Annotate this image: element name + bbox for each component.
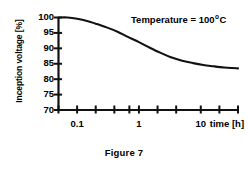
chart-annotation-temperature: Temperature = 100oC xyxy=(131,11,226,25)
x-axis-title: time [h] xyxy=(210,118,244,129)
x-tick-label: 0.1 xyxy=(71,118,84,129)
x-tick-label: 1 xyxy=(136,118,141,129)
annotation-unit: C xyxy=(220,14,227,25)
figure-container: Inception voltage [%] 707580859095100 0.… xyxy=(0,0,248,169)
annotation-text: Temperature = 100 xyxy=(131,14,215,25)
x-tick-label: 10 xyxy=(195,118,206,129)
figure-caption: Figure 7 xyxy=(0,147,248,158)
x-tick-label-group: 0.1110 xyxy=(0,0,248,169)
